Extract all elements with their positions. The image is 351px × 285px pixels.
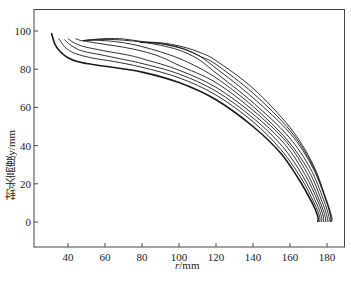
x-tick-label: 160 (282, 251, 299, 263)
y-tick-label: 20 (20, 178, 32, 190)
y-tick-label: 40 (20, 140, 32, 152)
x-tick-label: 120 (208, 251, 225, 263)
x-tick-label: 40 (63, 251, 75, 263)
x-tick-label: 60 (100, 251, 112, 263)
y-tick-label: 60 (20, 101, 32, 113)
x-axis-label: r/mm (175, 259, 199, 271)
series-line-5 (75, 39, 325, 222)
series-line-9 (140, 43, 331, 223)
y-tick-label: 0 (26, 216, 32, 228)
y-axis-label: 封头高度y/mm (4, 130, 18, 200)
series-line-2 (59, 39, 320, 222)
series-line-10 (140, 42, 332, 222)
x-tick-label: 80 (137, 251, 149, 263)
x-tick-label: 140 (245, 251, 262, 263)
x-tick-label: 180 (319, 251, 336, 263)
y-tick-label: 80 (20, 63, 32, 75)
chart-plot: 406080100120140160180 020406080100 (0, 0, 351, 285)
y-tick-label: 100 (15, 25, 32, 37)
curve-series (51, 33, 332, 222)
x-axis-unit: /mm (179, 259, 199, 271)
